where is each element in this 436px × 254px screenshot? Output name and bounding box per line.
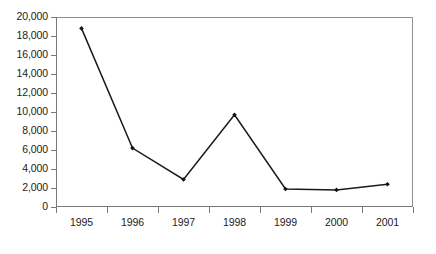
series-markers [79, 26, 390, 192]
line-chart-figure: 02,0004,0006,0008,00010,00012,00014,0001… [0, 0, 436, 254]
series-data-point [79, 26, 84, 31]
page-text-bleed [0, 246, 436, 254]
series-line [82, 28, 388, 190]
series-data-point [385, 182, 390, 187]
data-series-layer [0, 0, 436, 254]
series-data-point [334, 188, 339, 193]
